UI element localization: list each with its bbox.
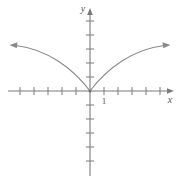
origin-point — [89, 90, 92, 93]
coordinate-plane-svg: x y 1 — [0, 0, 182, 183]
x-tick-label-one: 1 — [102, 96, 107, 106]
graph-figure: x y 1 — [0, 0, 182, 183]
curve-right-arrow-icon — [163, 42, 171, 48]
y-axis-label: y — [80, 3, 86, 14]
curve-left-arrow-icon — [10, 42, 18, 48]
y-axis-arrow-icon — [87, 8, 93, 15]
curve-right-branch — [90, 46, 164, 92]
x-axis-label: x — [167, 94, 173, 105]
x-axis-arrow-icon — [167, 88, 174, 94]
curve-left-branch — [16, 46, 90, 92]
